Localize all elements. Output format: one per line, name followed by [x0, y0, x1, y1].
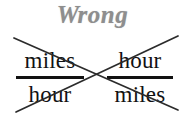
fraction-right-numerator: hour: [104, 48, 176, 76]
fraction-miles-over-hour: miles hour: [14, 48, 86, 108]
fraction-left-numerator: miles: [14, 48, 86, 76]
fraction-hour-over-miles: hour miles: [104, 48, 176, 108]
fraction-left-denominator: hour: [14, 79, 86, 108]
fraction-right-denominator: miles: [104, 79, 176, 108]
figure-title: Wrong: [0, 2, 185, 28]
wrong-unit-conversion-figure: Wrong miles hour hour miles: [0, 0, 185, 122]
